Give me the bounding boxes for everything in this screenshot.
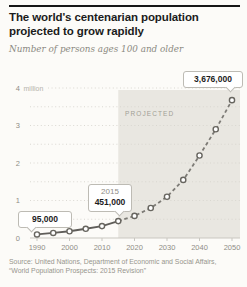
chart-canvas: 199020002010202020302040205001234million — [0, 0, 247, 287]
data-point-2045 — [213, 127, 218, 132]
data-point-2005 — [83, 226, 88, 231]
data-point-2035 — [181, 177, 186, 182]
data-point-2030 — [164, 194, 169, 199]
x-tick-label: 1990 — [29, 243, 46, 252]
x-tick-label: 2000 — [61, 243, 78, 252]
data-point-1990 — [34, 232, 39, 237]
data-point-1995 — [51, 230, 56, 235]
y-unit-label: million — [24, 85, 44, 92]
data-point-2020 — [132, 213, 137, 218]
line-chart: 199020002010202020302040205001234million… — [0, 0, 247, 287]
source-note: Source: United Nations, Department of Ec… — [9, 257, 244, 276]
y-tick-label: 3 — [16, 121, 20, 130]
data-point-2050 — [229, 98, 234, 103]
data-point-2040 — [197, 153, 202, 158]
chart-card: The world's centenarian population proje… — [0, 0, 247, 287]
y-tick-label: 4 — [16, 84, 20, 93]
callout-2015-year: 2015 — [101, 187, 119, 196]
data-point-2010 — [99, 224, 104, 229]
x-tick-label: 2010 — [94, 243, 111, 252]
x-tick-label: 2050 — [224, 243, 241, 252]
x-tick-label: 2030 — [159, 243, 176, 252]
callout-2015-value: 451,000 — [95, 197, 126, 207]
callout-2050: 3,676,000 — [183, 71, 243, 88]
y-tick-label: 0 — [16, 234, 20, 243]
data-point-2025 — [148, 205, 153, 210]
y-tick-label: 2 — [16, 159, 20, 168]
projected-region-label: PROJECTED — [125, 110, 174, 117]
source-line-2: “World Population Prospects: 2015 Revisi… — [9, 267, 146, 274]
x-tick-label: 2040 — [191, 243, 208, 252]
callout-2015: 2015 451,000 — [88, 184, 132, 212]
data-point-2000 — [67, 229, 72, 234]
data-point-2015 — [116, 218, 121, 223]
callout-2050-value: 3,676,000 — [194, 74, 232, 84]
source-line-1: Source: United Nations, Department of Ec… — [9, 258, 216, 265]
callout-1990-value: 95,000 — [32, 214, 58, 224]
x-tick-label: 2020 — [126, 243, 143, 252]
y-tick-label: 1 — [16, 196, 20, 205]
callout-1990: 95,000 — [18, 211, 72, 228]
